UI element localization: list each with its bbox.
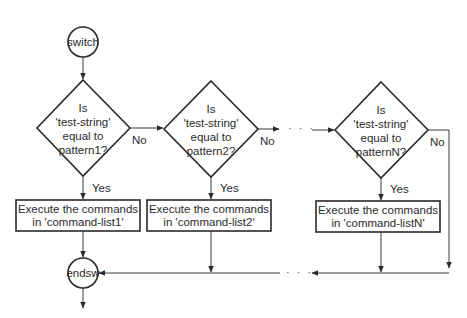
decision1-line2: 'test-string' <box>56 116 111 128</box>
end-label: endsw <box>66 267 100 279</box>
decision1-line4: pattern1? <box>59 144 108 156</box>
actionN-line2: in 'command-listN' <box>331 217 424 229</box>
decisionN-line1: Is <box>377 104 386 116</box>
d1-no-label: No <box>132 134 147 146</box>
actionN-line1: Execute the commands <box>318 204 438 216</box>
decision2-line3: equal to <box>191 131 232 143</box>
dN-no-label: No <box>430 136 445 148</box>
d1-yes-label: Yes <box>92 182 111 194</box>
action1-line1: Execute the commands <box>18 203 138 215</box>
decision2-line1: Is <box>207 103 216 115</box>
action2-line2: in 'command-list2' <box>163 216 254 228</box>
decisionN-line3: equal to <box>361 132 402 144</box>
start-label: switch <box>67 36 99 48</box>
decisionN-line2: 'test-string' <box>354 118 409 130</box>
action-command-listN: Execute the commands in 'command-listN' <box>316 201 440 232</box>
decision1-line3: equal to <box>63 130 104 142</box>
decision-pattern1: Is 'test-string' equal to pattern1? <box>37 80 130 176</box>
d2-yes-label: Yes <box>220 182 239 194</box>
dN-yes-label: Yes <box>390 183 409 195</box>
start-node-switch: switch <box>67 27 99 57</box>
decision-pattern2: Is 'test-string' equal to pattern2? <box>164 81 258 177</box>
action2-line1: Execute the commands <box>149 203 269 215</box>
decision2-line2: 'test-string' <box>184 117 239 129</box>
action-command-list1: Execute the commands in 'command-list1' <box>16 200 140 231</box>
decisionN-line4: patternN? <box>356 146 407 158</box>
ellipsis-top: · · · <box>288 122 315 134</box>
decision2-line4: pattern2? <box>187 145 236 157</box>
end-node-endsw: endsw <box>66 258 100 288</box>
switch-flowchart: switch Is 'test-string' equal to pattern… <box>0 0 467 318</box>
decision-patternN: Is 'test-string' equal to patternN? <box>335 82 428 178</box>
action1-line2: in 'command-list1' <box>32 216 123 228</box>
decision1-line1: Is <box>79 102 88 114</box>
d2-no-label: No <box>260 135 275 147</box>
arrow-dN-no <box>428 130 449 268</box>
ellipsis-bottom: · · · <box>286 266 313 278</box>
action-command-list2: Execute the commands in 'command-list2' <box>147 200 271 231</box>
